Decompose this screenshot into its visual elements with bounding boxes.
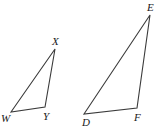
vertex-label-X: X — [52, 36, 59, 47]
vertex-label-F: F — [134, 112, 141, 123]
triangle-DEF-outline — [84, 15, 150, 114]
vertex-label-D: D — [82, 117, 90, 128]
triangle-WXY — [11, 49, 55, 112]
geometry-figure: W X Y D E F — [0, 0, 158, 135]
vertex-label-W: W — [1, 113, 10, 124]
vertex-label-Y: Y — [43, 111, 49, 122]
vertex-label-E: E — [147, 2, 154, 13]
triangle-DEF — [84, 15, 150, 114]
triangle-WXY-outline — [11, 49, 55, 112]
